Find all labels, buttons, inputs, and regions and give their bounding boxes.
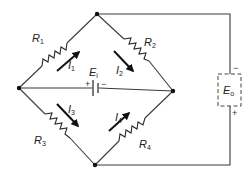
node-top [95, 12, 99, 16]
label-r4: R4 [139, 138, 151, 151]
output-minus-sign: − [233, 63, 238, 73]
node-left [17, 86, 21, 90]
node-bottom [93, 163, 97, 167]
wheatstone-bridge-diagram: R1 R2 R3 R4 I1 I2 I3 I4 Ei + − Eo − + [0, 0, 252, 175]
label-i1: I1 [68, 59, 75, 72]
source-plus-sign: + [85, 79, 90, 89]
source-minus-sign: − [101, 79, 106, 89]
label-r1: R1 [32, 32, 44, 45]
output-plus-sign: + [232, 108, 237, 118]
branch-r3 [19, 88, 95, 165]
label-r2: R2 [144, 36, 156, 49]
label-r3: R3 [34, 134, 46, 147]
label-i4: I4 [115, 111, 122, 124]
label-ei: Ei [89, 66, 98, 79]
resistor-r1 [42, 43, 67, 66]
source-branch [19, 80, 173, 96]
label-i2: I2 [116, 64, 123, 77]
branch-r4 [95, 91, 173, 165]
resistor-r3 [45, 113, 70, 138]
branch-r2 [97, 14, 173, 91]
label-i3: I3 [68, 103, 75, 116]
node-right [171, 89, 175, 93]
branch-r1 [19, 14, 97, 88]
label-eo: Eo [223, 84, 234, 97]
